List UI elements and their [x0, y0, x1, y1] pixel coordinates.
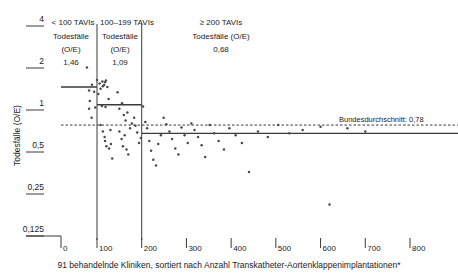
x-tick-label-7: 700	[367, 245, 380, 253]
scatter-point	[217, 140, 220, 143]
scatter-point	[301, 129, 304, 132]
scatter-point	[88, 89, 91, 92]
scatter-point	[171, 138, 174, 141]
chart-plot-area	[0, 0, 458, 277]
group-metric-label-g1-line2: (O/E)	[46, 46, 96, 54]
scatter-point	[129, 127, 132, 130]
x-tick-label-3: 300	[188, 245, 201, 253]
scatter-point	[187, 142, 190, 145]
x-tick-label-4: 400	[233, 245, 246, 253]
scatter-point	[102, 130, 105, 133]
scatter-point	[99, 88, 102, 91]
scatter-point	[180, 126, 183, 129]
scatter-point	[90, 116, 93, 119]
scatter-point	[122, 145, 125, 148]
scatter-point	[124, 119, 127, 122]
x-tick-label-2: 200	[144, 245, 157, 253]
scatter-point	[111, 157, 114, 160]
scatter-point	[364, 130, 367, 133]
scatter-point	[103, 84, 106, 87]
scatter-point	[118, 130, 121, 133]
group-header-g2: 100–199 TAVIs	[96, 19, 158, 27]
scatter-point	[101, 105, 104, 108]
scatter-point	[208, 124, 211, 127]
scatter-point	[146, 127, 149, 130]
scatter-point	[288, 132, 291, 135]
scatter-point	[148, 140, 151, 143]
scatter-point	[241, 142, 244, 145]
group-header-g3: ≥ 200 TAVIs	[166, 19, 276, 27]
group-metric-label-g2-line2: (O/E)	[96, 46, 144, 54]
scatter-point	[93, 91, 96, 94]
group-metric-label-g1-line1: Todesfälle	[46, 33, 96, 41]
scatter-point	[177, 153, 180, 156]
y-axis-title: Todesfälle (O/E)	[12, 105, 22, 166]
scatter-point	[101, 80, 104, 83]
scatter-point	[140, 137, 143, 140]
scatter-point	[134, 125, 137, 128]
scatter-point	[123, 114, 126, 117]
group-value-g3: 0,68	[166, 46, 276, 54]
scatter-point	[346, 127, 349, 130]
scatter-point	[105, 79, 108, 82]
scatter-point	[108, 147, 111, 150]
chart-container: Todesfälle (O/E) 4210,50,250,125 1002003…	[0, 0, 458, 277]
scatter-point	[150, 150, 153, 153]
scatter-point	[126, 111, 129, 114]
x-axis-title: 91 behandelnde Kliniken, sortiert nach A…	[0, 261, 458, 270]
scatter-point	[121, 102, 124, 105]
scatter-point	[223, 148, 226, 151]
x-tick-label-6: 600	[323, 245, 336, 253]
x-tick-label-8: 800	[412, 245, 425, 253]
scatter-point	[88, 108, 91, 111]
scatter-point	[152, 158, 155, 161]
group-header-g1: < 100 TAVIs	[46, 19, 100, 27]
scatter-point	[197, 136, 200, 139]
y-tick-label-2: 1	[0, 99, 44, 108]
scatter-point	[97, 93, 100, 96]
scatter-point	[174, 147, 177, 150]
scatter-point	[144, 121, 147, 124]
scatter-points	[86, 66, 367, 206]
y-tick-label-1: 2	[0, 57, 44, 66]
scatter-point	[204, 156, 207, 159]
scatter-point	[104, 106, 107, 109]
scatter-point	[267, 136, 270, 139]
scatter-point	[98, 82, 101, 85]
group-value-g1: 1,46	[46, 59, 96, 67]
group-mean-lines	[61, 87, 458, 133]
scatter-point	[138, 142, 141, 145]
scatter-point	[127, 153, 130, 156]
scatter-point	[277, 124, 280, 127]
scatter-point	[118, 108, 121, 111]
y-tick-label-5: 0,125	[0, 225, 44, 234]
y-tick-label-4: 0,25	[0, 183, 44, 192]
scatter-point	[125, 148, 128, 151]
scatter-point	[91, 83, 94, 86]
x-tick-label-zero: 0	[63, 245, 67, 253]
scatter-point	[133, 116, 136, 119]
scatter-point	[123, 134, 126, 137]
scatter-point	[94, 106, 97, 109]
scatter-point	[160, 134, 163, 137]
scatter-point	[89, 100, 92, 103]
scatter-point	[200, 144, 203, 147]
scatter-point	[162, 116, 165, 119]
scatter-point	[248, 171, 251, 174]
scatter-point	[234, 134, 237, 137]
scatter-point	[319, 125, 322, 128]
group-metric-label-g2-line1: Todesfälle	[96, 33, 144, 41]
scatter-point	[328, 203, 331, 206]
scatter-point	[228, 127, 231, 130]
scatter-point	[96, 79, 99, 82]
scatter-point	[110, 143, 113, 146]
scatter-point	[142, 105, 145, 108]
scatter-point	[165, 123, 168, 126]
scatter-point	[155, 164, 158, 167]
scatter-point	[168, 130, 171, 133]
scatter-point	[190, 122, 193, 125]
scatter-point	[136, 131, 139, 134]
scatter-point	[183, 134, 186, 137]
scatter-point	[131, 122, 134, 125]
scatter-point	[120, 138, 123, 141]
